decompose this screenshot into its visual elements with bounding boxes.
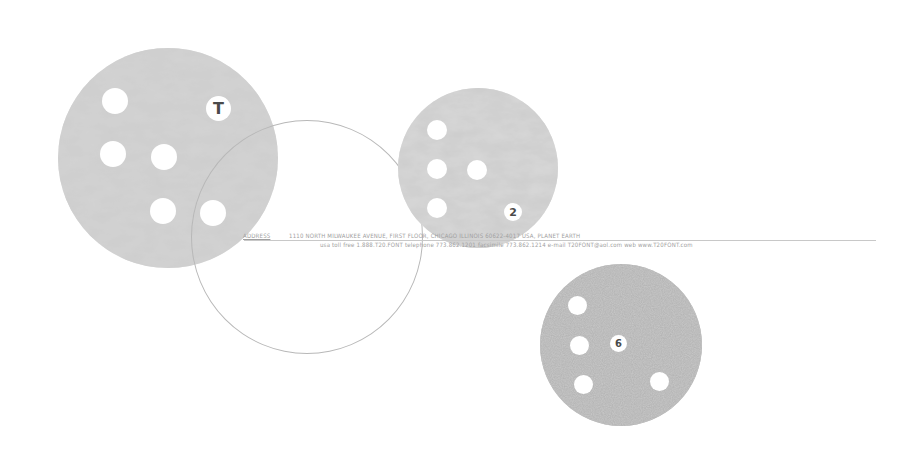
disc-t-hole bbox=[102, 88, 128, 114]
disc-2-hole bbox=[427, 198, 447, 218]
disc-6-badge: 6 bbox=[610, 335, 627, 352]
letterhead-canvas: T 2 6 ADDRESS 1110 NORTH MILWAUKEE AVENU… bbox=[0, 0, 922, 457]
address-line-2: usa toll free 1.888.T20.FONT telephone 7… bbox=[320, 241, 693, 248]
disc-t-hole bbox=[150, 198, 176, 224]
disc-6-hole bbox=[650, 372, 669, 391]
address-label: ADDRESS bbox=[243, 232, 270, 239]
disc-t-badge: T bbox=[206, 96, 231, 121]
disc-t-hole bbox=[100, 141, 126, 167]
address-line-1: 1110 NORTH MILWAUKEE AVENUE, FIRST FLOOR… bbox=[289, 232, 580, 239]
disc-2-badge: 2 bbox=[504, 203, 522, 221]
disc-t-hole bbox=[151, 144, 177, 170]
disc-2-hole bbox=[467, 160, 487, 180]
disc-6-hole bbox=[574, 375, 593, 394]
disc-2-hole bbox=[427, 120, 447, 140]
disc-2-hole bbox=[427, 159, 447, 179]
disc-6-hole bbox=[570, 336, 589, 355]
disc-6-hole bbox=[568, 296, 587, 315]
